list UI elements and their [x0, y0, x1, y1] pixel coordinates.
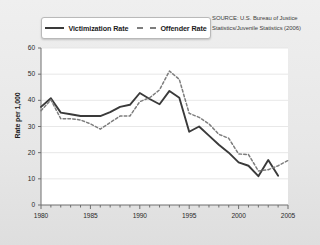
x-axis-tick-label: 1980 — [28, 212, 54, 219]
y-axis-tick-label: 0 — [17, 201, 35, 208]
x-axis-tick-label: 1995 — [176, 212, 202, 219]
y-axis-tick-label: 30 — [17, 123, 35, 130]
chart-figure: Victimization Rate Offender Rate SOURCE:… — [0, 0, 320, 245]
chart-canvas — [0, 0, 320, 245]
x-axis-tick-label: 1985 — [77, 212, 103, 219]
plot-area: 0102030405060198019851990199520002005 — [0, 0, 320, 245]
x-axis-tick-label: 1990 — [127, 212, 153, 219]
y-axis-tick-label: 50 — [17, 70, 35, 77]
y-axis-tick-label: 20 — [17, 149, 35, 156]
y-axis-tick-label: 40 — [17, 96, 35, 103]
x-axis-tick-label: 2005 — [275, 212, 301, 219]
y-axis-tick-label: 60 — [17, 44, 35, 51]
x-axis-tick-label: 2000 — [226, 212, 252, 219]
y-axis-tick-label: 10 — [17, 175, 35, 182]
